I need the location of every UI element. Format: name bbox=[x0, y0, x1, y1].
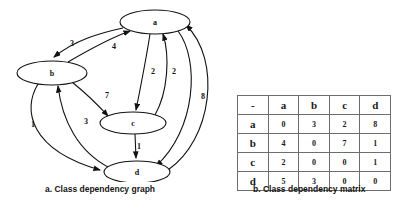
matrix-cell-b-d: 1 bbox=[360, 134, 391, 153]
edge-weight-d-b: 3 bbox=[84, 117, 88, 126]
matrix-corner-header: - bbox=[238, 96, 269, 115]
matrix-col-header-b: b bbox=[299, 96, 330, 115]
matrix-cell-b-a: 4 bbox=[268, 134, 299, 153]
matrix-cell-c-b: 0 bbox=[299, 153, 330, 172]
edge-b-to-a bbox=[68, 31, 130, 62]
matrix-cell-c-d: 1 bbox=[360, 153, 391, 172]
matrix-cell-c-c: 0 bbox=[329, 153, 360, 172]
matrix-cell-a-d: 8 bbox=[360, 115, 391, 134]
matrix-cell-a-b: 3 bbox=[299, 115, 330, 134]
table-row: b 4 0 7 1 bbox=[238, 134, 391, 153]
graph-node-a-label: a bbox=[153, 18, 157, 27]
figure-root: a b c d 3 4 2 2 7 1 3 1 8 5 - a bbox=[0, 0, 409, 205]
matrix-cell-a-a: 0 bbox=[268, 115, 299, 134]
table-row: a 0 3 2 8 bbox=[238, 115, 391, 134]
matrix-cell-a-c: 2 bbox=[329, 115, 360, 134]
graph-node-d-label: d bbox=[135, 168, 140, 177]
edge-weight-c-d: 1 bbox=[137, 142, 141, 151]
edge-weight-a-b: 3 bbox=[70, 39, 74, 48]
dependency-graph-svg: a b c d 3 4 2 2 7 1 3 1 8 5 bbox=[0, 0, 225, 182]
graph-node-b-label: b bbox=[50, 69, 55, 78]
table-header-row: - a b c d bbox=[238, 96, 391, 115]
matrix-caption: b. Class dependency matrix bbox=[253, 184, 365, 194]
graph-caption: a. Class dependency graph bbox=[45, 184, 155, 194]
edge-weight-a-c: 2 bbox=[151, 67, 155, 76]
edge-weight-b-c: 7 bbox=[105, 91, 109, 100]
matrix-cell-c-a: 2 bbox=[268, 153, 299, 172]
edge-c-to-a bbox=[155, 34, 167, 115]
matrix-cell-b-c: 7 bbox=[329, 134, 360, 153]
matrix-col-header-d: d bbox=[360, 96, 391, 115]
edge-c-to-d bbox=[135, 134, 136, 158]
graph-node-c-label: c bbox=[131, 119, 135, 128]
matrix-cell-b-b: 0 bbox=[299, 134, 330, 153]
matrix-col-header-a: a bbox=[268, 96, 299, 115]
dependency-matrix-table: - a b c d a 0 3 2 8 b 4 0 7 bbox=[237, 95, 391, 191]
matrix-col-header-c: c bbox=[329, 96, 360, 115]
matrix-row-header-a: a bbox=[238, 115, 269, 134]
matrix-row-header-b: b bbox=[238, 134, 269, 153]
edge-b-to-c bbox=[72, 82, 108, 116]
class-dependency-graph-panel: a b c d 3 4 2 2 7 1 3 1 8 5 bbox=[0, 0, 225, 205]
table-row: c 2 0 0 1 bbox=[238, 153, 391, 172]
edge-weight-c-a: 2 bbox=[172, 67, 176, 76]
edge-weight-b-a: 4 bbox=[112, 42, 116, 51]
edge-weight-a-d: 8 bbox=[201, 92, 205, 101]
edge-weight-b-d: 1 bbox=[31, 120, 35, 129]
edge-a-to-d bbox=[156, 31, 191, 166]
matrix-row-header-c: c bbox=[238, 153, 269, 172]
class-dependency-matrix-panel: - a b c d a 0 3 2 8 b 4 0 7 bbox=[237, 95, 391, 191]
edge-a-to-c bbox=[136, 34, 150, 110]
